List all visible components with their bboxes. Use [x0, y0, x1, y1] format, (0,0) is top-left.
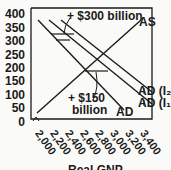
y-tick-label: 250 — [0, 49, 25, 61]
chart: 400 350 300 250 200 150 100 50 0 2,000 2… — [0, 0, 171, 170]
label-as: AS — [139, 16, 156, 28]
y-tick-label: 350 — [0, 22, 25, 34]
label-ad-i1: AD (I₁) — [138, 97, 171, 109]
y-tick-label: 0 — [0, 116, 25, 128]
y-tick-label: 200 — [0, 62, 25, 74]
y-tick-label: 100 — [0, 89, 25, 101]
y-tick-label: 150 — [0, 75, 25, 87]
annotation-150-line2: billion — [72, 104, 107, 116]
annotation-300-billion: + $300 billion — [67, 10, 143, 22]
y-tick-label: 300 — [0, 35, 25, 47]
label-ad: AD — [116, 106, 133, 118]
y-tick-label: 50 — [0, 102, 25, 114]
y-tick-label: 400 — [0, 8, 25, 20]
x-axis-title: Real GNP — [68, 163, 123, 170]
ad-i2-curve — [61, 20, 152, 92]
